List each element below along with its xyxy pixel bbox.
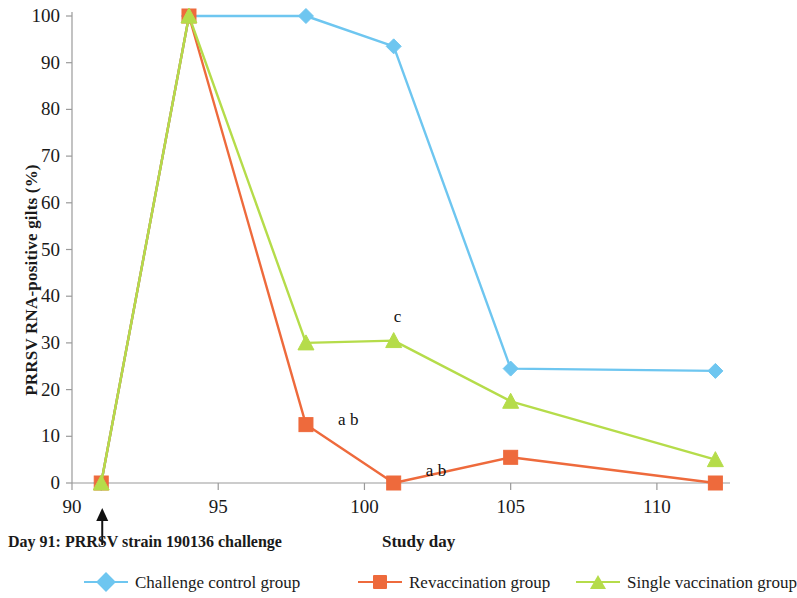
data-point-marker	[299, 418, 313, 432]
chart-legend: Challenge control groupRevaccination gro…	[84, 570, 736, 596]
series-2	[94, 9, 722, 490]
legend-label: Challenge control group	[135, 574, 300, 591]
data-point-marker	[504, 450, 518, 464]
legend-marker-square-icon	[373, 575, 387, 589]
legend-item-3[interactable]: Single vaccination group	[576, 570, 797, 594]
y-tick-label: 0	[16, 473, 60, 492]
legend-key	[84, 573, 128, 591]
data-point-marker	[298, 9, 313, 24]
x-axis-title: Study day	[382, 532, 455, 552]
legend-item-2[interactable]: Revaccination group	[358, 570, 550, 594]
legend-key	[576, 573, 620, 591]
y-tick-label: 80	[16, 99, 60, 118]
data-point-marker	[708, 363, 723, 378]
y-tick-label: 40	[16, 286, 60, 305]
axes-layer	[66, 12, 730, 490]
x-tick-label: 105	[481, 497, 541, 516]
legend-label: Revaccination group	[409, 574, 550, 591]
legend-item-1[interactable]: Challenge control group	[84, 570, 300, 594]
legend-key	[358, 573, 402, 591]
y-tick-label: 100	[16, 6, 60, 25]
legend-label: Single vaccination group	[627, 574, 797, 591]
x-tick-label: 100	[334, 497, 394, 516]
x-tick-label: 95	[188, 497, 248, 516]
y-tick-label: 30	[16, 333, 60, 352]
data-point-marker	[387, 476, 401, 490]
data-point-marker	[708, 476, 722, 490]
data-point-marker	[503, 393, 519, 408]
point-annotation: c	[394, 308, 402, 325]
x-tick-label: 110	[627, 497, 687, 516]
y-tick-label: 50	[16, 240, 60, 259]
point-annotation: a b	[426, 462, 446, 479]
point-annotation: a b	[338, 411, 358, 428]
legend-marker-diamond-icon	[96, 572, 116, 592]
y-tick-label: 60	[16, 193, 60, 212]
y-tick-label: 20	[16, 380, 60, 399]
y-tick-label: 70	[16, 146, 60, 165]
series-1	[94, 9, 723, 491]
legend-marker-triangle-icon	[590, 575, 606, 589]
data-point-marker	[386, 39, 401, 54]
series-layer	[93, 8, 723, 491]
challenge-event-note: Day 91: PRRSV strain 190136 challenge	[8, 533, 282, 551]
series-3	[93, 8, 723, 490]
data-point-marker	[503, 361, 518, 376]
y-tick-label: 10	[16, 426, 60, 445]
x-tick-label: 90	[42, 497, 102, 516]
y-tick-label: 90	[16, 53, 60, 72]
